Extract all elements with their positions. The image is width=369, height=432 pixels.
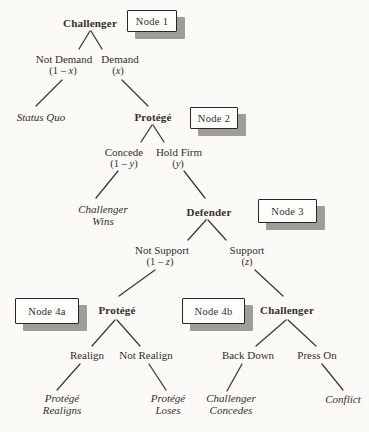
edge-not-support-node4a — [119, 270, 155, 296]
prob-pre: (1 – — [110, 158, 129, 169]
outcome-line1: Challenger — [78, 203, 128, 215]
edge-not-realign-protege-loses — [149, 364, 166, 390]
prob-post: ) — [134, 158, 138, 169]
node4b-tag-label: Node 4b — [195, 306, 233, 317]
node2-tag-label: Node 2 — [198, 113, 230, 124]
action-back-down: Back Down — [222, 349, 274, 361]
node4a-tag-label: Node 4a — [28, 306, 65, 317]
prob-concede: (1 – y) — [110, 158, 137, 170]
edge-support-node4b — [255, 270, 283, 296]
prob-post: ) — [73, 65, 77, 76]
player-node2-protege: Protégé — [134, 111, 171, 123]
prob-post: ) — [170, 256, 174, 267]
action-not-realign: Not Realign — [119, 349, 172, 361]
prob-not-support: (1 – z) — [147, 256, 174, 268]
outcome-line1: Challenger — [206, 392, 256, 404]
edge-node4b-press-on — [288, 320, 316, 346]
outcome-challenger-wins: Challenger Wins — [78, 203, 128, 227]
prob-not-demand: (1 – x) — [49, 65, 76, 77]
prob-hold-firm: (y) — [172, 158, 184, 170]
outcome-line2: Wins — [78, 215, 128, 227]
edge-concede-challenger-wins — [96, 171, 118, 198]
outcome-challenger-concedes: Challenger Concedes — [206, 392, 256, 416]
prob-post: ) — [249, 256, 253, 267]
outcome-line1: Protégé — [43, 392, 82, 404]
node4a-tag-box: Node 4a — [15, 298, 79, 324]
prob-pre: (1 – — [49, 65, 68, 76]
prob-demand: (x) — [112, 65, 124, 77]
action-demand: Demand — [101, 53, 138, 65]
node3-tag-box: Node 3 — [258, 199, 317, 223]
action-not-demand: Not Demand — [36, 53, 93, 65]
edge-back-down-challenger-concedes — [227, 364, 242, 391]
node4b-tag-box: Node 4b — [182, 298, 245, 324]
action-hold-firm: Hold Firm — [156, 146, 202, 158]
outcome-line2: Realigns — [43, 404, 82, 416]
node2-tag-box: Node 2 — [190, 107, 238, 129]
player-node1-challenger: Challenger — [63, 17, 117, 29]
player-node3-defender: Defender — [187, 206, 232, 218]
game-tree-figure: Node 1 Node 2 Node 3 Node 4a Node 4b Cha… — [0, 0, 369, 432]
outcome-conflict: Conflict — [325, 393, 360, 405]
edge-realign-protege-realigns — [57, 364, 80, 390]
outcome-line2: Loses — [151, 404, 185, 416]
edge-node3-not-support — [188, 220, 206, 240]
action-support: Support — [230, 244, 265, 256]
edge-node2-concede — [141, 125, 152, 142]
edge-node1-demand — [91, 31, 102, 49]
prob-pre: (1 – — [147, 256, 166, 267]
node1-tag-label: Node 1 — [136, 16, 168, 27]
edge-node4b-back-down — [256, 320, 286, 346]
edge-node2-hold-firm — [153, 125, 164, 142]
edge-press-on-conflict — [322, 364, 343, 390]
prob-support: (z) — [241, 256, 252, 268]
action-not-support: Not Support — [135, 244, 189, 256]
player-node4a-protege: Protégé — [98, 304, 135, 316]
outcome-status-quo: Status Quo — [17, 111, 66, 123]
action-realign: Realign — [70, 349, 104, 361]
prob-post: ) — [180, 158, 184, 169]
edge-hold-firm-node3 — [184, 171, 205, 198]
edge-node3-support — [208, 220, 226, 240]
edge-not-demand-status-quo — [36, 80, 62, 106]
action-press-on: Press On — [297, 349, 336, 361]
edge-node4a-not-realign — [117, 320, 140, 346]
prob-post: ) — [120, 65, 124, 76]
edge-node4a-realign — [92, 320, 115, 346]
outcome-line1: Protégé — [151, 392, 185, 404]
outcome-protege-realigns: Protégé Realigns — [43, 392, 82, 416]
edge-node1-not-demand — [79, 31, 90, 49]
outcome-line2: Concedes — [206, 404, 256, 416]
outcome-protege-loses: Protégé Loses — [151, 392, 185, 416]
node1-tag-box: Node 1 — [127, 10, 177, 32]
node3-tag-label: Node 3 — [271, 206, 303, 217]
player-node4b-challenger: Challenger — [260, 304, 314, 316]
action-concede: Concede — [105, 146, 143, 158]
edge-demand-node2 — [122, 80, 148, 106]
